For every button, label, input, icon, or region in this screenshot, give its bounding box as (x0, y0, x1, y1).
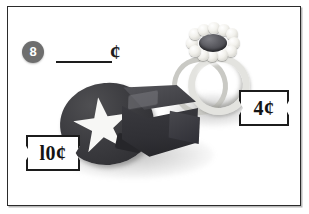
illustration-stage: 8 ¢ (8, 7, 300, 205)
ring-petal (189, 45, 201, 57)
price-tag-whistle-label: l0¢ (39, 143, 66, 163)
question-number-badge: 8 (22, 41, 44, 63)
answer-row: ¢ (56, 41, 136, 67)
cent-symbol: ¢ (110, 39, 121, 65)
whistle-icon (60, 79, 220, 173)
ring-gemstone (199, 34, 227, 52)
price-tag-whistle: l0¢ (26, 135, 80, 171)
price-tag-ring: 4¢ (239, 90, 289, 126)
ring-flower-head (186, 27, 240, 63)
worksheet-page: 8 ¢ (0, 0, 309, 214)
answer-blank-line[interactable] (56, 61, 112, 63)
question-frame: 8 ¢ (7, 6, 301, 206)
price-tag-ring-label: 4¢ (254, 98, 275, 118)
